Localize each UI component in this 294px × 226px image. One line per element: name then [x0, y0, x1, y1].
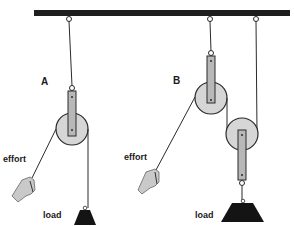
- label-effort-a: effort: [3, 154, 26, 164]
- ceiling-beam: [34, 10, 290, 16]
- load-ring: [241, 199, 245, 203]
- label-effort-b: effort: [124, 152, 147, 162]
- axle: [241, 174, 243, 176]
- effort-rope: [156, 97, 195, 170]
- label-b: B: [173, 75, 180, 86]
- support-rope: [210, 21, 211, 51]
- pulley-diagram: A effort load B effort load: [0, 0, 294, 226]
- hook-ring: [208, 17, 213, 22]
- load-weight: [221, 203, 264, 222]
- hand-icon: [12, 177, 35, 202]
- axle: [241, 134, 243, 136]
- strap-ring: [70, 86, 75, 91]
- axle: [210, 60, 212, 62]
- label-a: A: [41, 76, 48, 87]
- axle: [71, 129, 73, 131]
- pulley-system-a: A effort load: [3, 17, 96, 226]
- hook-ring: [67, 17, 72, 22]
- hook-ring: [254, 17, 259, 22]
- axle: [210, 99, 212, 101]
- strap-ring: [209, 51, 214, 56]
- pulley-system-b: B effort load: [124, 17, 264, 223]
- label-load-a: load: [43, 210, 62, 220]
- label-load-b: load: [195, 210, 214, 220]
- hand-icon: [138, 169, 159, 194]
- load-ring: [83, 206, 87, 210]
- load-weight: [74, 210, 96, 225]
- effort-rope: [32, 129, 56, 178]
- axle: [71, 96, 73, 98]
- strap-ring: [240, 181, 245, 186]
- lower-pulley-strap: [238, 130, 246, 180]
- support-rope: [69, 21, 72, 86]
- upper-pulley-strap: [207, 56, 215, 103]
- fixed-rope: [256, 21, 257, 132]
